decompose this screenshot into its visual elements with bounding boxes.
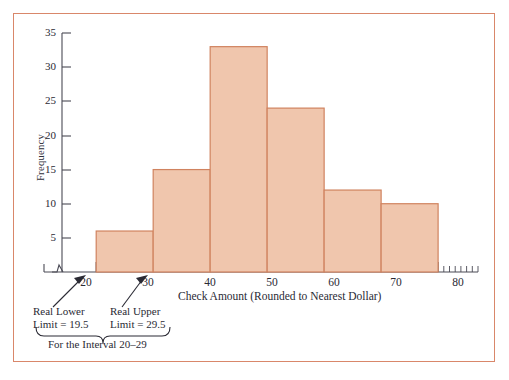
- x-tick-label-20: 20: [71, 276, 101, 288]
- histogram-bar: [96, 231, 153, 272]
- axis-break-icon: [52, 265, 63, 272]
- y-tick-label-10: 10: [34, 197, 56, 209]
- histogram-bar: [324, 190, 381, 272]
- y-tick-label-15: 15: [34, 163, 56, 175]
- y-tick-label-5: 5: [34, 231, 56, 243]
- x-tick-label-70: 70: [381, 276, 411, 288]
- x-tick-label-30: 30: [133, 276, 163, 288]
- x-tick-label-80: 80: [443, 276, 473, 288]
- annotation-real-lower-limit-line2: Limit = 19.5: [33, 318, 88, 331]
- annotation-real-upper-limit: Real Upper Limit = 29.5: [110, 305, 165, 331]
- histogram-bars: [96, 47, 438, 272]
- y-tick-label-30: 30: [34, 60, 56, 72]
- histogram-bar: [267, 108, 324, 272]
- x-axis-title: Check Amount (Rounded to Nearest Dollar): [178, 290, 381, 302]
- histogram-bar: [153, 170, 210, 272]
- annotation-real-lower-limit-line1: Real Lower: [33, 305, 88, 318]
- y-tick-label-20: 20: [34, 129, 56, 141]
- y-tick-label-35: 35: [34, 26, 56, 38]
- annotation-interval: For the Interval 20–29: [48, 338, 147, 350]
- histogram-bar: [210, 47, 267, 272]
- x-tick-label-50: 50: [257, 276, 287, 288]
- x-tick-label-40: 40: [195, 276, 225, 288]
- histogram-bar: [381, 204, 438, 272]
- x-tick-label-60: 60: [319, 276, 349, 288]
- y-axis-title: Frequency: [35, 113, 46, 203]
- annotation-real-upper-limit-line2: Limit = 29.5: [110, 318, 165, 331]
- annotation-real-upper-limit-line1: Real Upper: [110, 305, 165, 318]
- y-tick-label-25: 25: [34, 94, 56, 106]
- annotation-real-lower-limit: Real Lower Limit = 19.5: [33, 305, 88, 331]
- y-axis-ticks: [62, 33, 71, 238]
